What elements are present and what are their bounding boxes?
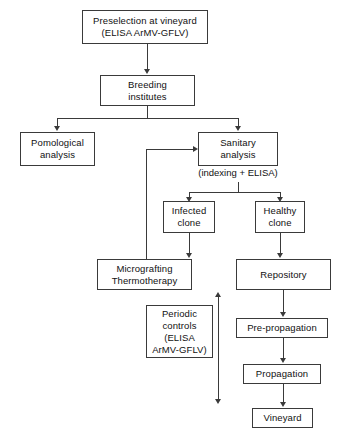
node-healthy-line2: clone	[268, 217, 291, 228]
connector-infected-micrografting	[189, 233, 190, 254]
connector-repository-prepropagation	[283, 290, 284, 313]
node-propagation[interactable]: Propagation	[243, 364, 321, 384]
node-periodic-line1: Periodic	[162, 308, 197, 319]
arrowhead-pomological	[54, 126, 60, 131]
node-preselection-line2: (ELISA ArMV-GFLV)	[101, 27, 188, 38]
node-sanitary-line2: analysis	[220, 149, 255, 160]
arrowhead-sanitary	[235, 126, 241, 131]
node-repository-label: Repository	[260, 269, 306, 281]
node-periodic-line4: ArMV-GFLV)	[152, 344, 207, 355]
connector-prepropagation-propagation	[283, 338, 284, 359]
node-infected-line2: clone	[177, 217, 200, 228]
node-vineyard[interactable]: Vineyard	[252, 408, 313, 428]
connector-breeding-split	[57, 118, 239, 119]
arrowhead-periodic-scope-bottom	[215, 399, 221, 404]
arrowhead-vineyard	[280, 402, 286, 407]
connector-breeding-stem	[147, 106, 148, 118]
connector-healthy-repository	[280, 233, 281, 254]
node-vineyard-label: Vineyard	[263, 412, 301, 424]
flowchart-diagram: Preselection at vineyard (ELISA ArMV-GFL…	[0, 0, 347, 438]
connector-sanitary-stem	[238, 182, 239, 192]
node-healthy-line1: Healthy	[264, 205, 297, 216]
node-periodic-line2: controls	[162, 320, 196, 331]
caption-indexing-elisa: (indexing + ELISA)	[178, 167, 298, 179]
connector-propagation-vineyard	[283, 384, 284, 403]
node-breeding-institutes[interactable]: Breeding institutes	[100, 75, 195, 106]
node-propagation-label: Propagation	[256, 368, 308, 380]
connector-clone-split	[189, 192, 281, 193]
connector-periodic-scope-line	[218, 296, 219, 400]
node-infected-line1: Infected	[172, 205, 207, 216]
node-prepropagation-label: Pre-propagation	[247, 322, 317, 334]
node-preselection[interactable]: Preselection at vineyard (ELISA ArMV-GFL…	[82, 10, 208, 44]
node-healthy-clone[interactable]: Healthy clone	[255, 201, 305, 233]
node-sanitary-analysis[interactable]: Sanitary analysis	[198, 132, 278, 166]
connector-feedback-vertical	[146, 149, 147, 259]
arrowhead-repository	[277, 253, 283, 258]
node-micrografting-line1: Micrografting	[116, 263, 172, 274]
node-pomological-line2: analysis	[40, 149, 75, 160]
arrowhead-prepropagation	[280, 312, 286, 317]
arrowhead-preselection-breeding	[144, 69, 150, 74]
node-sanitary-line1: Sanitary	[220, 137, 256, 148]
arrowhead-propagation	[280, 358, 286, 363]
node-micrografting-thermotherapy[interactable]: Micrografting Thermotherapy	[97, 259, 192, 290]
connector-feedback-horizontal	[146, 149, 193, 150]
node-breeding-line2: institutes	[128, 91, 167, 102]
node-pre-propagation[interactable]: Pre-propagation	[236, 318, 328, 338]
node-preselection-line1: Preselection at vineyard	[93, 15, 197, 26]
node-pomological-analysis[interactable]: Pomological analysis	[20, 132, 95, 166]
node-infected-clone[interactable]: Infected clone	[163, 201, 215, 233]
arrowhead-micrografting	[186, 253, 192, 258]
node-pomological-line1: Pomological	[31, 137, 84, 148]
node-breeding-line1: Breeding	[128, 79, 167, 90]
arrowhead-periodic-scope-top	[215, 292, 221, 297]
node-periodic-controls[interactable]: Periodic controls (ELISA ArMV-GFLV)	[146, 305, 213, 358]
node-micrografting-line2: Thermotherapy	[112, 275, 178, 286]
node-repository[interactable]: Repository	[236, 259, 331, 290]
connector-preselection-breeding	[147, 44, 148, 70]
node-periodic-line3: (ELISA	[164, 332, 195, 343]
